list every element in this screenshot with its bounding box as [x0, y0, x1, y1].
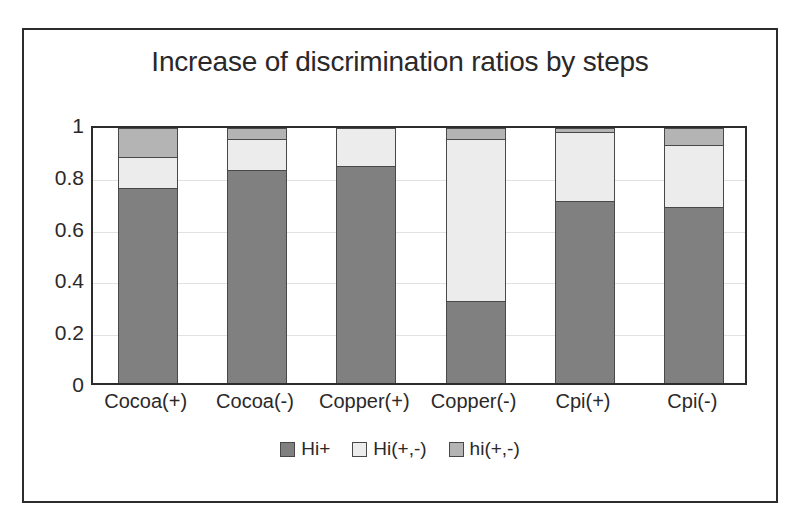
- bar-segment[interactable]: [227, 128, 287, 139]
- bar-segment[interactable]: [555, 201, 615, 383]
- bar-segment[interactable]: [336, 166, 396, 383]
- stacked-bar[interactable]: [336, 128, 396, 383]
- bar-segment[interactable]: [555, 132, 615, 201]
- y-tick-label: 1: [26, 114, 84, 138]
- legend-swatch-icon: [449, 442, 464, 457]
- y-tick-label: 0.6: [26, 218, 84, 242]
- stacked-bar[interactable]: [664, 128, 724, 383]
- bar-group: [530, 128, 639, 383]
- chart-title: Increase of discrimination ratios by ste…: [24, 46, 776, 78]
- stacked-bar[interactable]: [118, 128, 178, 383]
- y-tick-label: 0.2: [26, 321, 84, 345]
- bar-segment[interactable]: [446, 301, 506, 383]
- legend-label: Hi+: [301, 438, 330, 460]
- legend-item[interactable]: hi(+,-): [449, 438, 520, 460]
- legend-item[interactable]: Hi(+,-): [352, 438, 426, 460]
- y-tick-label: 0.4: [26, 269, 84, 293]
- bar-segment[interactable]: [446, 128, 506, 139]
- bar-segment[interactable]: [227, 170, 287, 383]
- y-axis: 00.20.40.60.81: [24, 126, 84, 385]
- bar-segment[interactable]: [446, 139, 506, 301]
- bar-group: [202, 128, 311, 383]
- bar-group: [93, 128, 202, 383]
- bar-segment[interactable]: [118, 128, 178, 157]
- legend-label: hi(+,-): [470, 438, 520, 460]
- stacked-bar[interactable]: [446, 128, 506, 383]
- bar-segment[interactable]: [336, 128, 396, 166]
- bar-segment[interactable]: [227, 139, 287, 170]
- stacked-bar[interactable]: [227, 128, 287, 383]
- bar-group: [421, 128, 530, 383]
- legend-swatch-icon: [280, 442, 295, 457]
- y-tick-label: 0: [26, 373, 84, 397]
- x-axis: Cocoa(+)Cocoa(-)Copper(+)Copper(-)Cpi(+)…: [91, 390, 747, 420]
- chart-legend: Hi+Hi(+,-)hi(+,-): [24, 438, 776, 460]
- x-tick-label: Cpi(+): [555, 390, 610, 413]
- bar-segment[interactable]: [664, 207, 724, 383]
- bar-segment[interactable]: [664, 128, 724, 145]
- x-tick-label: Cocoa(+): [104, 390, 187, 413]
- stacked-bar[interactable]: [555, 128, 615, 383]
- x-tick-label: Copper(+): [319, 390, 410, 413]
- bar-group: [312, 128, 421, 383]
- x-tick-label: Cpi(-): [667, 390, 717, 413]
- y-tick-label: 0.8: [26, 166, 84, 190]
- plot-area: [91, 126, 747, 385]
- x-tick-label: Copper(-): [431, 390, 517, 413]
- x-tick-label: Cocoa(-): [216, 390, 294, 413]
- bar-segment[interactable]: [118, 188, 178, 383]
- bar-segment[interactable]: [118, 157, 178, 188]
- figure-frame: Increase of discrimination ratios by ste…: [22, 28, 778, 503]
- legend-swatch-icon: [352, 442, 367, 457]
- bar-group: [640, 128, 749, 383]
- legend-item[interactable]: Hi+: [280, 438, 330, 460]
- legend-label: Hi(+,-): [373, 438, 426, 460]
- bar-segment[interactable]: [664, 145, 724, 207]
